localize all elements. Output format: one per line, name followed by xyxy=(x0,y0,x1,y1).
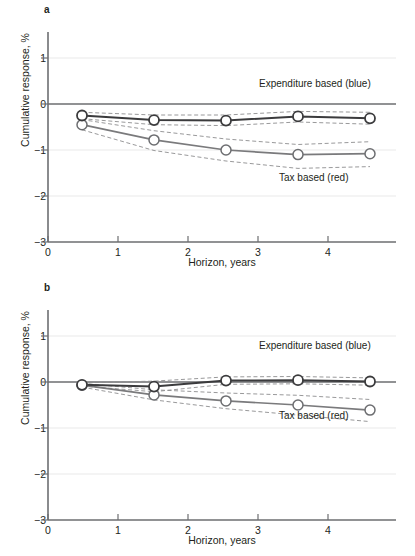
expenditure-ci-upper-a xyxy=(82,111,370,115)
x-axis-label-b: Horizon, years xyxy=(48,534,396,546)
figure-root: a Cumulative response, % 1 0 −1 −2 −3 xyxy=(0,0,415,556)
x-axis-label-a: Horizon, years xyxy=(48,256,396,268)
panel-a: a Cumulative response, % 1 0 −1 −2 −3 xyxy=(0,0,415,278)
annotation-tax-b: Tax based (red) xyxy=(279,410,348,421)
annotation-expenditure-a: Expenditure based (blue) xyxy=(259,78,371,89)
annotation-tax-a: Tax based (red) xyxy=(279,172,348,183)
plot-area-b xyxy=(0,278,415,556)
panel-b: b Cumulative response, % 1 0 −1 −2 −3 xyxy=(0,278,415,556)
plot-area-a xyxy=(0,0,415,278)
annotation-expenditure-b: Expenditure based (blue) xyxy=(259,340,371,351)
